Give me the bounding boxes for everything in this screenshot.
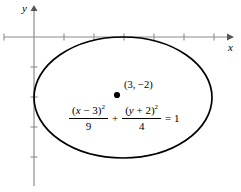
ellipse-curve [34,37,212,158]
equation-numerator-x-exponent: 2 [101,103,105,111]
equation-plus-operator: + [112,113,118,124]
equation-numerator-x: (x − 3)2 [69,104,108,119]
equation-numerator-y-text: (y + 2) [125,104,154,116]
equation-numerator-y-exponent: 2 [155,103,159,111]
equation-fraction-y: (y + 2)2 4 [122,104,161,132]
x-axis-label: x [228,42,233,53]
equation-numerator-x-text: (x − 3) [72,104,101,116]
ellipse-equation: (x − 3)2 9 + (y + 2)2 4 = 1 [68,104,183,132]
y-axis-arrow-icon [31,5,38,11]
equation-denominator-x: 9 [86,119,92,133]
ellipse-graph-figure: y x (3, −2) (x − 3)2 9 + (y + 2)2 4 = 1 [0,0,241,192]
equation-equals-one: = 1 [165,113,179,124]
equation-denominator-y: 4 [139,119,145,133]
graph-canvas [0,0,241,192]
ellipse-center-coordinate-label: (3, −2) [124,80,153,91]
x-axis-arrow-icon [227,34,234,41]
equation-fraction-x: (x − 3)2 9 [69,104,108,132]
ellipse-center-point [114,92,120,98]
equation-numerator-y: (y + 2)2 [122,104,161,119]
y-axis-label: y [22,3,27,14]
